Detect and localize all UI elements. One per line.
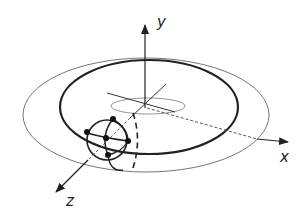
sphere-node: [110, 116, 116, 122]
sphere-node: [103, 135, 109, 141]
diagram-canvas: y x z: [0, 0, 304, 215]
z-axis: [56, 160, 88, 192]
dashed-vertical-arc: [133, 113, 138, 168]
y-axis-label: y: [156, 13, 167, 31]
x-axis-label: x: [279, 148, 289, 166]
x-axis-dashed: [147, 108, 257, 139]
sphere-node: [84, 129, 90, 135]
z-axis-label: z: [65, 192, 75, 210]
center-cross-line: [107, 93, 175, 112]
sphere-node: [125, 138, 131, 144]
sphere-node: [105, 152, 111, 158]
x-axis: [257, 139, 288, 142]
